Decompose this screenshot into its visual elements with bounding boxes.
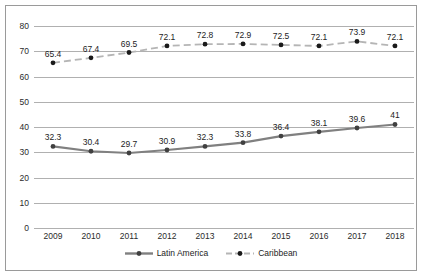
data-point-label: 72.8 [197, 31, 214, 40]
data-point-marker [241, 42, 246, 47]
data-point-label: 69.5 [121, 39, 138, 48]
data-point-label: 38.1 [311, 118, 328, 127]
data-point-label: 67.4 [83, 44, 100, 53]
data-point-marker [127, 50, 132, 55]
data-point-marker [165, 148, 170, 153]
data-point-label: 41 [390, 111, 399, 120]
data-point-label: 33.8 [235, 129, 252, 138]
y-axis-tick-label: 70 [20, 47, 29, 56]
data-point-label: 30.9 [159, 136, 176, 145]
x-axis-tick-label: 2009 [44, 232, 63, 241]
data-point-label: 72.1 [159, 32, 176, 41]
data-point-label: 32.3 [197, 133, 214, 142]
data-point-marker [89, 149, 94, 154]
x-axis-tick-label: 2011 [120, 232, 138, 241]
legend-item-caribbean[interactable]: Caribbean [226, 249, 297, 258]
legend-item-latin-america[interactable]: Latin America [125, 249, 209, 258]
data-point-marker [165, 44, 170, 49]
data-point-marker [241, 140, 246, 145]
data-point-marker [279, 43, 284, 48]
data-point-label: 72.9 [235, 30, 252, 39]
x-axis-tick-label: 2017 [348, 232, 367, 241]
data-point-marker [393, 122, 398, 127]
data-point-label: 72.5 [273, 31, 290, 40]
y-axis-tick-label: 10 [20, 199, 29, 208]
x-axis-tick-label: 2010 [82, 232, 101, 241]
data-point-marker [279, 134, 284, 139]
y-axis-tick-label: 50 [20, 98, 29, 107]
data-point-marker [203, 144, 208, 149]
data-point-label: 30.4 [83, 138, 100, 147]
data-point-label: 32.3 [45, 133, 62, 142]
data-point-label: 36.4 [273, 123, 290, 132]
data-point-marker [355, 126, 360, 131]
data-point-label: 65.4 [45, 49, 62, 58]
series-line [53, 124, 395, 153]
y-axis-tick-label: 40 [20, 123, 29, 132]
gridline [34, 228, 414, 229]
legend-item-label: Latin America [157, 249, 209, 258]
data-point-marker [393, 44, 398, 49]
y-axis-tick-label: 0 [24, 224, 29, 233]
y-axis-tick-label: 80 [20, 22, 29, 31]
x-axis-tick-label: 2014 [234, 232, 253, 241]
data-point-marker [355, 39, 360, 44]
data-point-marker [317, 129, 322, 134]
series-line [53, 41, 395, 62]
data-point-label: 39.6 [349, 115, 366, 124]
legend-item-label: Caribbean [258, 249, 297, 258]
chart-container: 01020304050607080 2009201020112012201320… [5, 5, 417, 271]
y-axis-tick-label: 60 [20, 72, 29, 81]
x-axis-tick-label: 2016 [310, 232, 329, 241]
data-point-marker [51, 60, 56, 65]
chart-legend: Latin AmericaCaribbean [6, 249, 416, 258]
legend-swatch-icon [226, 249, 254, 258]
x-axis-tick-label: 2015 [272, 232, 291, 241]
data-point-label: 72.1 [387, 32, 404, 41]
y-axis-tick-label: 20 [20, 173, 29, 182]
x-axis-tick-label: 2013 [196, 232, 215, 241]
plot-area: 01020304050607080 2009201020112012201320… [34, 26, 414, 228]
data-point-label: 72.1 [311, 32, 328, 41]
data-point-marker [127, 151, 132, 156]
data-point-label: 73.9 [349, 28, 366, 37]
data-series-group [34, 26, 414, 228]
data-point-label: 29.7 [121, 140, 138, 149]
y-axis-tick-label: 30 [20, 148, 29, 157]
x-axis-tick-label: 2018 [386, 232, 405, 241]
data-point-marker [89, 55, 94, 60]
x-axis-tick-label: 2012 [158, 232, 177, 241]
data-point-marker [317, 44, 322, 49]
legend-swatch-icon [125, 249, 153, 258]
data-point-marker [51, 144, 56, 149]
data-point-marker [203, 42, 208, 47]
